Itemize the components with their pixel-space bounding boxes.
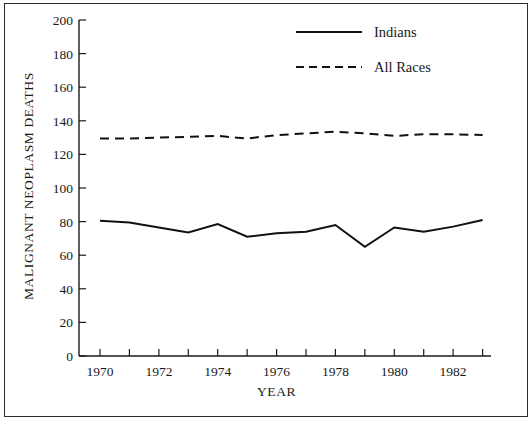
y-tick-160: 160: [53, 80, 74, 95]
chart-legend: Indians All Races: [296, 24, 431, 75]
y-tick-40: 40: [60, 282, 74, 297]
series-line-indians: [100, 220, 483, 247]
legend-label-all-races: All Races: [374, 59, 431, 75]
y-tick-180: 180: [53, 47, 74, 62]
legend-label-indians: Indians: [374, 24, 417, 40]
y-tick-60: 60: [60, 248, 74, 263]
y-tick-20: 20: [60, 315, 74, 330]
x-axis-title: YEAR: [257, 384, 296, 399]
chart-figure: MALIGNANT NEOPLASM DEATHS 200 180 160 14…: [0, 0, 532, 421]
y-axis-ticks: [79, 20, 86, 356]
y-tick-100: 100: [53, 181, 74, 196]
x-axis-ticks: [100, 349, 483, 356]
x-tick-1970: 1970: [87, 364, 114, 379]
y-axis-title: MALIGNANT NEOPLASM DEATHS: [21, 72, 36, 300]
series-line-all-races: [100, 132, 483, 139]
x-tick-1974: 1974: [204, 364, 231, 379]
line-chart: MALIGNANT NEOPLASM DEATHS 200 180 160 14…: [0, 0, 532, 421]
y-tick-0: 0: [66, 349, 73, 364]
x-tick-1980: 1980: [381, 364, 408, 379]
x-tick-1972: 1972: [145, 364, 172, 379]
y-axis-tick-labels: 200 180 160 140 120 100 80 60 40 20 0: [53, 13, 74, 364]
y-tick-140: 140: [53, 114, 74, 129]
y-tick-120: 120: [53, 147, 74, 162]
x-axis-tick-labels: 1970 1972 1974 1976 1978 1980 1982: [87, 364, 467, 379]
y-tick-200: 200: [53, 13, 74, 28]
x-tick-1978: 1978: [322, 364, 349, 379]
x-tick-1982: 1982: [440, 364, 467, 379]
y-tick-80: 80: [60, 215, 74, 230]
x-tick-1976: 1976: [263, 364, 290, 379]
